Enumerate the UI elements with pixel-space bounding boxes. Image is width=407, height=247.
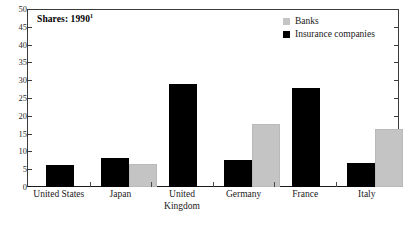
y-tick-label: 40 xyxy=(5,41,27,50)
x-label-japan: Japan xyxy=(90,189,152,201)
chart-title: Shares: 19901 xyxy=(37,14,93,24)
bar-insurance-united-states[interactable] xyxy=(46,165,74,187)
y-axis: 50 45 40 35 30 25 20 15 10 5 0 xyxy=(0,0,27,196)
bar-insurance-germany[interactable] xyxy=(224,160,252,187)
bar-insurance-united-kingdom[interactable] xyxy=(169,84,197,187)
bar-group-united-states xyxy=(28,10,90,187)
legend: Banks Insurance companies xyxy=(283,15,403,41)
x-label-united-states: United States xyxy=(28,189,90,201)
y-tick-label: 45 xyxy=(5,23,27,32)
legend-label-banks: Banks xyxy=(295,16,319,26)
x-axis-labels: United States Japan United Kingdom Germa… xyxy=(28,189,398,229)
bar-banks-italy[interactable] xyxy=(375,129,403,187)
y-tick-label: 10 xyxy=(5,147,27,156)
x-label-line: Germany xyxy=(213,189,275,201)
x-label-france: France xyxy=(274,189,336,201)
bar-insurance-italy[interactable] xyxy=(347,163,375,187)
x-label-italy: Italy xyxy=(336,189,398,201)
x-label-line: France xyxy=(274,189,336,201)
legend-label-insurance-companies: Insurance companies xyxy=(295,29,375,39)
x-label-line: United States xyxy=(28,189,90,201)
y-tick-label: 25 xyxy=(5,94,27,103)
bar-group-united-kingdom xyxy=(151,10,213,187)
legend-item-insurance-companies[interactable]: Insurance companies xyxy=(283,28,403,40)
bar-insurance-france[interactable] xyxy=(292,88,320,187)
x-label-line: Kingdom xyxy=(151,201,213,213)
bar-group-japan xyxy=(90,10,152,187)
bar-insurance-japan[interactable] xyxy=(101,158,129,187)
x-label-line: United xyxy=(151,189,213,201)
y-tick-label: 50 xyxy=(5,5,27,14)
x-label-line: Japan xyxy=(90,189,152,201)
y-tick-label: 0 xyxy=(5,183,27,192)
x-label-united-kingdom: United Kingdom xyxy=(151,189,213,212)
x-label-germany: Germany xyxy=(213,189,275,201)
y-tick-label: 5 xyxy=(5,165,27,174)
bar-group-germany xyxy=(213,10,275,187)
legend-item-banks[interactable]: Banks xyxy=(283,15,403,27)
legend-swatch-banks-icon xyxy=(283,18,290,25)
x-label-line: Italy xyxy=(336,189,398,201)
legend-swatch-insurance-icon xyxy=(283,31,290,38)
chart-title-footnote-marker: 1 xyxy=(90,13,93,19)
y-tick-label: 35 xyxy=(5,58,27,67)
chart-title-text: Shares: 1990 xyxy=(37,14,90,24)
y-tick-label: 15 xyxy=(5,130,27,139)
figure-shares-1990: 50 45 40 35 30 25 20 15 10 5 0 xyxy=(0,0,407,247)
y-tick-label: 20 xyxy=(5,112,27,121)
next-chart-partial: 50 xyxy=(0,228,407,247)
y-tick-label: 30 xyxy=(5,76,27,85)
